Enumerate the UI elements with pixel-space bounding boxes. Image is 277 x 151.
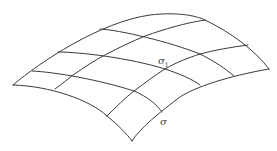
label-sigma-1-base: σ [158, 55, 165, 66]
label-sigma-1: σ1 [158, 56, 169, 68]
grid-line-u-1 [32, 71, 162, 112]
grid-line-u-3 [100, 29, 234, 76]
grid-line-v-2 [107, 45, 248, 116]
label-sigma-base: σ [160, 116, 167, 127]
surface-diagram [0, 0, 277, 151]
bottom-right-edge [132, 69, 269, 141]
bottom-left-edge [13, 85, 132, 141]
label-sigma: σ [160, 117, 167, 127]
label-sigma-1-subscript: 1 [165, 61, 169, 68]
grid-line-v-1 [55, 20, 205, 89]
surface-outline [13, 14, 269, 141]
top-left-edge [13, 14, 205, 85]
grid-line-u-2 [58, 52, 200, 85]
